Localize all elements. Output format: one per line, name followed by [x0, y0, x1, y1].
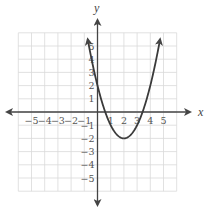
y-tick-label: −1 [80, 120, 94, 131]
y-tick-label: −5 [80, 173, 94, 184]
x-tick-label: −5 [24, 115, 38, 126]
x-tick-label: −3 [51, 115, 65, 126]
x-tick-label: 2 [121, 115, 127, 126]
x-tick-label: −4 [38, 115, 52, 126]
x-axis-label: x [197, 105, 204, 119]
y-tick-label: −2 [80, 133, 94, 144]
parabola-graph: −5−4−3−2−11234554321−1−2−3−4−5 x y [0, 0, 212, 209]
x-tick-label: 4 [147, 115, 153, 126]
parabola-curve-right [124, 39, 160, 138]
y-tick-label: −3 [80, 146, 94, 157]
x-tick-label: 5 [160, 115, 166, 126]
axes [7, 20, 190, 205]
y-tick-label: 2 [88, 80, 94, 91]
y-tick-label: −4 [80, 159, 94, 170]
y-tick-label: 1 [88, 93, 94, 104]
x-tick-label: −2 [64, 115, 78, 126]
y-axis-label: y [93, 1, 100, 15]
